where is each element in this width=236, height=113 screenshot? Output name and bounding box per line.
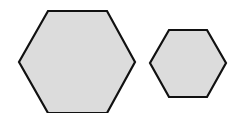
diagram-canvas: [0, 0, 236, 113]
large-hexagon: [19, 11, 135, 113]
small-hexagon: [150, 30, 226, 97]
